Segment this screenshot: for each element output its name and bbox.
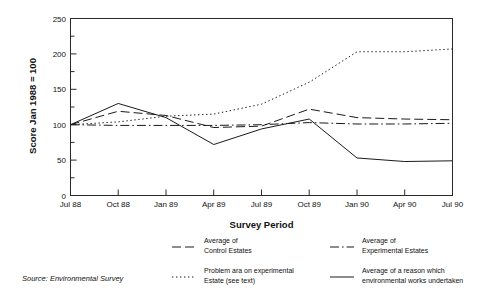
source-note: Source: Environmental Survey (22, 274, 125, 283)
legend-entry-control-estates[interactable]: Average of Control Estates (172, 237, 252, 254)
legend-label-control-estates-line2: Control Estates (204, 247, 252, 254)
series-line-problem-area (71, 49, 453, 125)
legend-label-control-estates-line1: Average of (204, 237, 238, 245)
x-tick-label-jan90: Jan 90 (345, 200, 370, 209)
plot-frame (71, 19, 453, 196)
y-axis-title-group: Score Jan 1988 = 100 (27, 58, 38, 154)
legend-entry-environmental-works[interactable]: Average of a reason which environmental … (330, 267, 463, 284)
legend-label-problem-area-line2: Estate (see text) (204, 277, 255, 285)
y-tick-label-50: 50 (57, 156, 66, 165)
legend-entry-problem-area[interactable]: Problem ara on experimental Estate (see … (172, 267, 294, 285)
x-tick-label-oct88: Oct 88 (106, 200, 130, 209)
data-series-group (71, 49, 453, 162)
x-tick-label-jul88: Jul 88 (60, 200, 82, 209)
y-tick-label-100: 100 (53, 121, 67, 130)
legend-label-experimental-estates-line2: Experimental Estates (362, 247, 429, 255)
legend: Average of Control Estates Average of Ex… (172, 237, 463, 285)
y-axis-title: Score Jan 1988 = 100 (27, 58, 38, 154)
y-tick-label-150: 150 (53, 85, 67, 94)
x-axis-ticks (71, 190, 453, 196)
x-tick-label-jul90: Jul 90 (442, 200, 464, 209)
legend-entry-experimental-estates[interactable]: Average of Experimental Estates (330, 237, 429, 255)
x-axis-tick-labels: Jul 88 Oct 88 Jan 89 Apr 89 Jul 89 Oct 8… (60, 200, 464, 209)
x-tick-label-oct89: Oct 89 (297, 200, 321, 209)
x-tick-label-jul89: Jul 89 (251, 200, 273, 209)
legend-label-experimental-estates-line1: Average of (362, 237, 396, 245)
x-tick-label-apr90: Apr 90 (393, 200, 417, 209)
legend-label-problem-area-line1: Problem ara on experimental (204, 267, 294, 275)
y-axis-tick-labels: 0 50 100 150 200 250 (53, 15, 67, 201)
y-tick-label-250: 250 (53, 15, 67, 24)
y-axis-ticks (71, 19, 77, 196)
y-tick-label-200: 200 (53, 50, 67, 59)
chart-figure: Score Jan 1988 = 100 0 50 100 150 200 (0, 0, 481, 302)
x-axis-title: Survey Period (230, 219, 294, 230)
x-tick-label-apr89: Apr 89 (202, 200, 226, 209)
x-tick-label-jan89: Jan 89 (154, 200, 179, 209)
legend-label-environmental-works-line2: environmental works undertaken (362, 277, 463, 284)
legend-label-environmental-works-line1: Average of a reason which (362, 267, 445, 275)
series-line-experimental-estates (71, 123, 453, 126)
line-chart-svg: Score Jan 1988 = 100 0 50 100 150 200 (0, 0, 481, 302)
